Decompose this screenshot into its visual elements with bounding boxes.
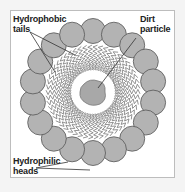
label-hydrophilic-heads: Hydrophilic heads (13, 156, 60, 176)
label-line: Dirt (140, 14, 170, 24)
label-hydrophobic-tails: Hydrophobic tails (13, 14, 66, 34)
label-dirt-particle: Dirt particle (140, 14, 170, 34)
label-line: Hydrophobic (13, 14, 66, 24)
label-line: heads (13, 166, 60, 176)
label-line: tails (13, 24, 66, 34)
label-line: particle (140, 24, 170, 34)
label-line: Hydrophilic (13, 156, 60, 166)
